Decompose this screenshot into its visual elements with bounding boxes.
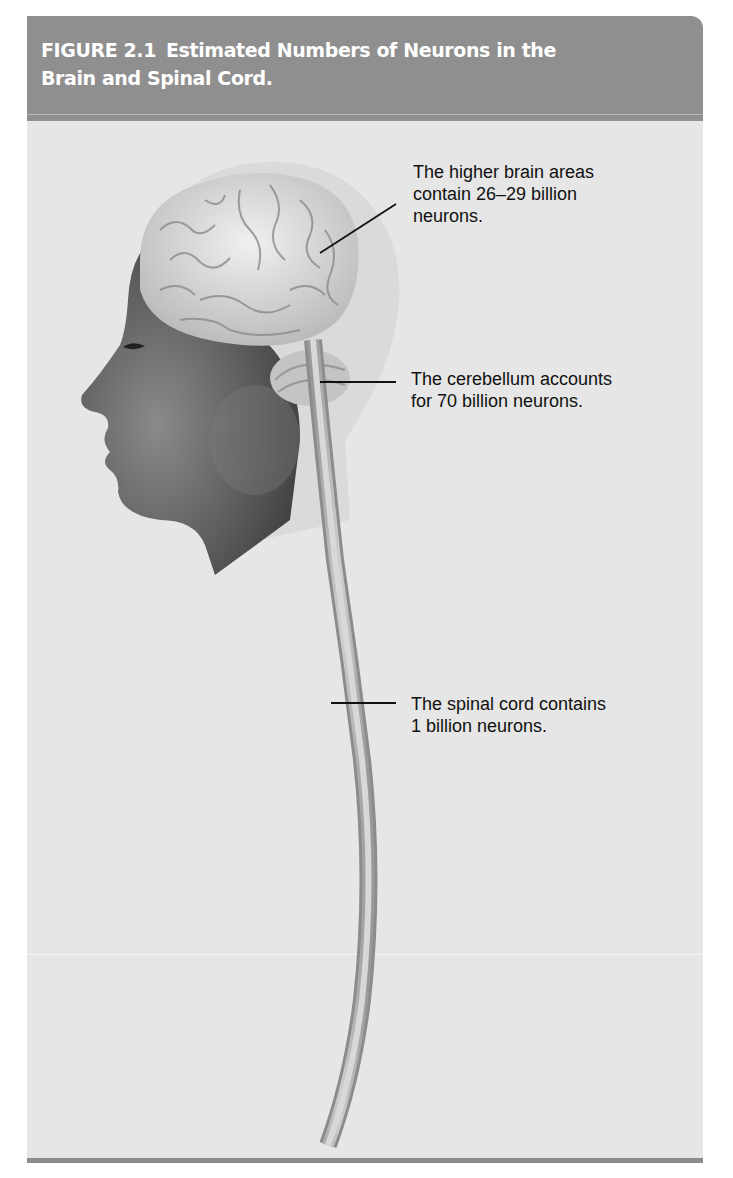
cerebrum-icon [140,173,359,346]
callout-text: neurons. [413,205,594,227]
callout-spinal-cord: The spinal cord contains 1 billion neuro… [411,693,606,737]
callout-text: The cerebellum accounts [411,368,612,390]
brain-spinal-cord-illustration [0,0,733,1178]
callout-cerebellum: The cerebellum accounts for 70 billion n… [411,368,612,412]
callout-text: The spinal cord contains [411,693,606,715]
callout-text: contain 26–29 billion [413,183,594,205]
callout-text: 1 billion neurons. [411,715,606,737]
callout-text: for 70 billion neurons. [411,390,612,412]
callout-higher-brain-areas: The higher brain areas contain 26–29 bil… [413,161,594,227]
callout-text: The higher brain areas [413,161,594,183]
